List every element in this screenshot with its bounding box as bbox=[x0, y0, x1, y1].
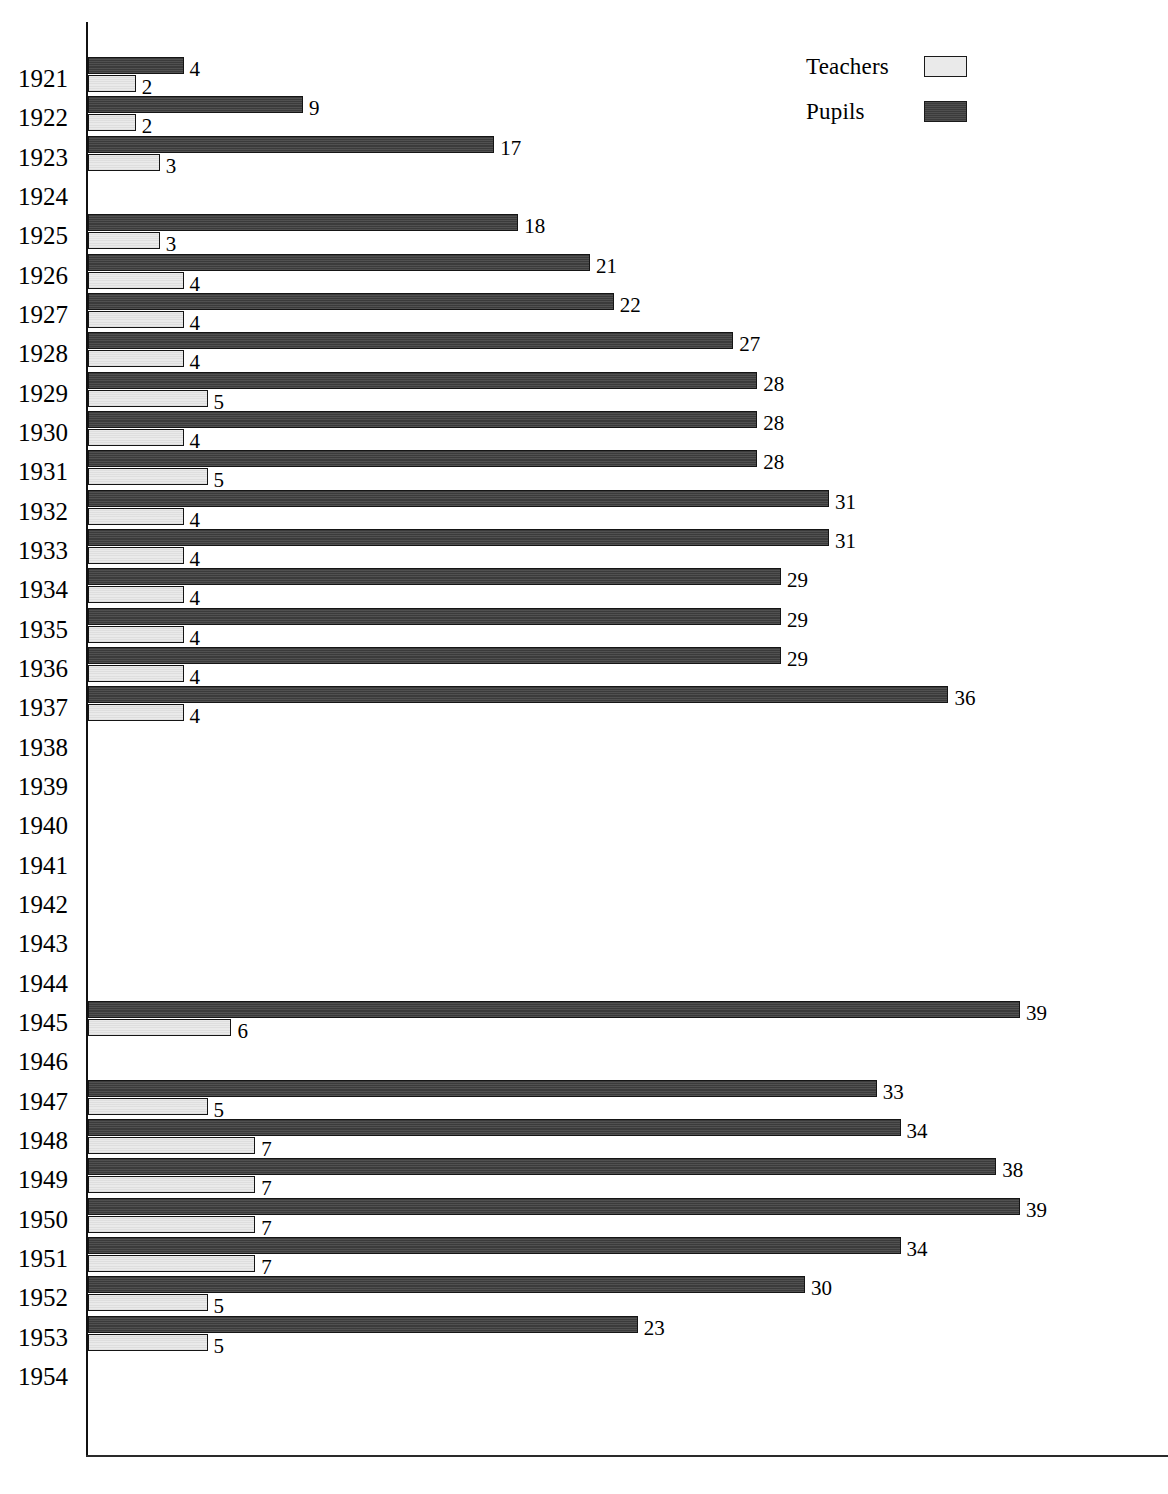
year-label: 1927 bbox=[0, 302, 68, 327]
year-label: 1928 bbox=[0, 341, 68, 366]
year-label: 1937 bbox=[0, 695, 68, 720]
bar-teachers bbox=[88, 114, 136, 131]
bar-value-pupils: 29 bbox=[787, 649, 808, 670]
bar-pupils bbox=[88, 1001, 1020, 1018]
bar-value-teachers: 7 bbox=[261, 1218, 272, 1239]
bar-chart: Teachers Pupils 192142192292192317319241… bbox=[0, 0, 1168, 1494]
chart-plot-area: 1921421922921923173192419251831926214192… bbox=[0, 0, 1168, 1494]
bar-value-pupils: 9 bbox=[309, 98, 320, 119]
bar-value-pupils: 33 bbox=[883, 1082, 904, 1103]
chart-row: 1950397 bbox=[0, 1198, 1168, 1237]
bar-value-pupils: 17 bbox=[500, 138, 521, 159]
bar-value-teachers: 6 bbox=[237, 1021, 248, 1042]
bar-teachers bbox=[88, 350, 184, 367]
year-label: 1949 bbox=[0, 1167, 68, 1192]
bar-teachers bbox=[88, 1137, 255, 1154]
year-label: 1924 bbox=[0, 184, 68, 209]
bar-value-pupils: 34 bbox=[907, 1121, 928, 1142]
bar-teachers bbox=[88, 272, 184, 289]
chart-row: 192142 bbox=[0, 57, 1168, 96]
year-label: 1945 bbox=[0, 1010, 68, 1035]
bar-value-pupils: 39 bbox=[1026, 1200, 1047, 1221]
bar-pupils bbox=[88, 96, 303, 113]
bar-value-pupils: 31 bbox=[835, 531, 856, 552]
bar-pupils bbox=[88, 1119, 901, 1136]
bar-teachers bbox=[88, 468, 208, 485]
year-label: 1935 bbox=[0, 617, 68, 642]
bar-pupils bbox=[88, 1198, 1020, 1215]
bar-value-pupils: 27 bbox=[739, 334, 760, 355]
chart-row: 1952305 bbox=[0, 1276, 1168, 1315]
bar-value-teachers: 5 bbox=[214, 1336, 225, 1357]
bar-teachers bbox=[88, 1176, 255, 1193]
bar-teachers bbox=[88, 508, 184, 525]
year-label: 1938 bbox=[0, 735, 68, 760]
bar-value-teachers: 2 bbox=[142, 77, 153, 98]
bar-value-teachers: 4 bbox=[190, 588, 201, 609]
bar-teachers bbox=[88, 586, 184, 603]
bar-value-teachers: 4 bbox=[190, 667, 201, 688]
year-label: 1936 bbox=[0, 656, 68, 681]
bar-teachers bbox=[88, 1019, 231, 1036]
bar-teachers bbox=[88, 1334, 208, 1351]
year-label: 1942 bbox=[0, 892, 68, 917]
bar-pupils bbox=[88, 1276, 805, 1293]
bar-teachers bbox=[88, 1294, 208, 1311]
bar-value-pupils: 28 bbox=[763, 374, 784, 395]
chart-row: 1947335 bbox=[0, 1080, 1168, 1119]
bar-teachers bbox=[88, 704, 184, 721]
chart-row: 1941 bbox=[0, 844, 1168, 883]
year-label: 1930 bbox=[0, 420, 68, 445]
bar-teachers bbox=[88, 232, 160, 249]
year-label: 1954 bbox=[0, 1364, 68, 1389]
bar-value-teachers: 4 bbox=[190, 352, 201, 373]
bar-value-teachers: 3 bbox=[166, 234, 177, 255]
bar-pupils bbox=[88, 529, 829, 546]
chart-row: 1923173 bbox=[0, 136, 1168, 175]
chart-row: 1937364 bbox=[0, 686, 1168, 725]
chart-row: 1930284 bbox=[0, 411, 1168, 450]
chart-row: 1931285 bbox=[0, 450, 1168, 489]
chart-row: 1954 bbox=[0, 1355, 1168, 1394]
bar-value-teachers: 2 bbox=[142, 116, 153, 137]
year-label: 1951 bbox=[0, 1246, 68, 1271]
year-label: 1939 bbox=[0, 774, 68, 799]
chart-row: 1935294 bbox=[0, 608, 1168, 647]
bar-value-teachers: 7 bbox=[261, 1257, 272, 1278]
year-label: 1933 bbox=[0, 538, 68, 563]
bar-value-pupils: 36 bbox=[954, 688, 975, 709]
year-label: 1950 bbox=[0, 1207, 68, 1232]
bar-value-teachers: 5 bbox=[214, 1296, 225, 1317]
bar-value-pupils: 21 bbox=[596, 256, 617, 277]
bar-teachers bbox=[88, 429, 184, 446]
bar-pupils bbox=[88, 1080, 877, 1097]
chart-row: 1943 bbox=[0, 922, 1168, 961]
bar-pupils bbox=[88, 1316, 638, 1333]
bar-value-teachers: 4 bbox=[190, 313, 201, 334]
bar-pupils bbox=[88, 411, 757, 428]
bar-pupils bbox=[88, 57, 184, 74]
chart-row: 1924 bbox=[0, 175, 1168, 214]
bar-value-pupils: 38 bbox=[1002, 1160, 1023, 1181]
chart-row: 1925183 bbox=[0, 214, 1168, 253]
year-label: 1929 bbox=[0, 381, 68, 406]
bar-value-teachers: 4 bbox=[190, 628, 201, 649]
bar-pupils bbox=[88, 450, 757, 467]
year-label: 1932 bbox=[0, 499, 68, 524]
chart-row: 1929285 bbox=[0, 372, 1168, 411]
chart-row: 1926214 bbox=[0, 254, 1168, 293]
year-label: 1921 bbox=[0, 66, 68, 91]
chart-row: 1932314 bbox=[0, 490, 1168, 529]
bar-value-pupils: 29 bbox=[787, 610, 808, 631]
year-label: 1946 bbox=[0, 1049, 68, 1074]
year-label: 1941 bbox=[0, 853, 68, 878]
chart-row: 1953235 bbox=[0, 1316, 1168, 1355]
bar-value-teachers: 7 bbox=[261, 1139, 272, 1160]
bar-value-pupils: 34 bbox=[907, 1239, 928, 1260]
bar-pupils bbox=[88, 608, 781, 625]
bar-teachers bbox=[88, 154, 160, 171]
bar-value-pupils: 29 bbox=[787, 570, 808, 591]
bar-value-pupils: 28 bbox=[763, 413, 784, 434]
bar-value-teachers: 7 bbox=[261, 1178, 272, 1199]
chart-row: 1948347 bbox=[0, 1119, 1168, 1158]
